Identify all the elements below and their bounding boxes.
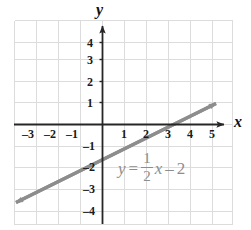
y-tick-label--1: –1 (80, 140, 98, 152)
coordinate-plane (0, 0, 251, 230)
x-tick-label--1: –1 (63, 128, 81, 140)
x-tick-label-3: 3 (161, 128, 175, 140)
x-axis-label: x (234, 114, 242, 130)
y-tick-label--3: –3 (80, 183, 98, 195)
y-tick-label-1: 1 (84, 97, 96, 109)
equation-annotation: y = 1 2 x – 2 (118, 152, 185, 185)
grid-lines (15, 21, 233, 225)
equation-fraction: 1 2 (141, 151, 153, 184)
x-tick-label--2: –2 (41, 128, 59, 140)
x-tick-label-4: 4 (183, 128, 197, 140)
equation-variable: x (155, 160, 163, 177)
y-tick-label-3: 3 (84, 54, 96, 66)
fraction-numerator: 1 (141, 151, 153, 167)
x-tick-label-2: 2 (139, 128, 153, 140)
x-tick-label--3: –3 (19, 128, 37, 140)
equation-equals: = (128, 160, 140, 177)
x-tick-label-1: 1 (117, 128, 131, 140)
x-tick-label-5: 5 (205, 128, 219, 140)
plotted-line (16, 104, 216, 203)
equation-constant: 2 (177, 160, 186, 177)
y-axis-label: y (96, 2, 103, 18)
graph-figure: y x –3 –2 –1 1 2 3 4 5 4 3 2 1 –1 –2 –3 … (0, 0, 251, 230)
y-tick-label-4: 4 (84, 37, 96, 49)
equation-lhs: y (118, 160, 126, 177)
y-tick-label--4: –4 (80, 205, 98, 217)
y-tick-label--2: –2 (80, 161, 98, 173)
equation-operator: – (164, 160, 175, 177)
fraction-denominator: 2 (141, 168, 153, 184)
y-tick-label-2: 2 (84, 76, 96, 88)
